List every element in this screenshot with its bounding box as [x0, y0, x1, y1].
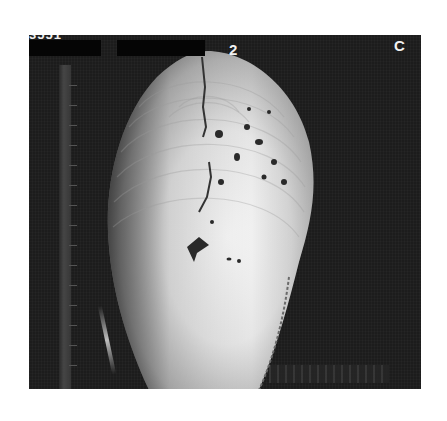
shell-specimen [99, 47, 315, 389]
redaction-bar-1 [29, 40, 101, 56]
redaction-bar-2 [117, 40, 205, 56]
specimen-photo: 3551 2 C [29, 35, 421, 389]
panel-number-label: 2 [229, 41, 237, 58]
panel-letter-label: C [394, 37, 405, 54]
scale-ruler-vertical [59, 65, 71, 389]
